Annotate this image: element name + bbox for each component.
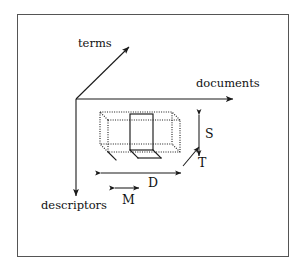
axis-label-terms: terms <box>78 36 112 50</box>
block-edge-tl <box>100 112 108 120</box>
block-edge-tr <box>172 112 180 120</box>
block-edge-br <box>172 144 180 152</box>
figure-canvas: terms documents descriptors S T D M <box>0 0 302 272</box>
block-slab <box>108 114 161 160</box>
dimension-label-D: D <box>148 175 158 190</box>
block-edge-bl <box>100 144 108 152</box>
dimension-T <box>183 147 199 166</box>
slab-plane-guide-front <box>116 158 138 160</box>
diagram-vector-layer <box>0 0 302 272</box>
dimension-label-M: M <box>122 192 135 207</box>
axis-label-descriptors: descriptors <box>41 198 107 212</box>
axis-label-documents: documents <box>196 76 260 90</box>
dimension-label-S: S <box>205 126 214 141</box>
axis-terms <box>76 47 129 99</box>
slab-edge-br <box>153 150 161 158</box>
slab-edge-bl <box>130 150 138 158</box>
dimension-label-T: T <box>198 155 206 170</box>
block-3d <box>100 112 180 152</box>
slab-face <box>130 114 153 150</box>
slab-plane-guide-left <box>108 152 116 160</box>
block-front-face <box>108 120 180 152</box>
block-back-face <box>100 112 172 144</box>
